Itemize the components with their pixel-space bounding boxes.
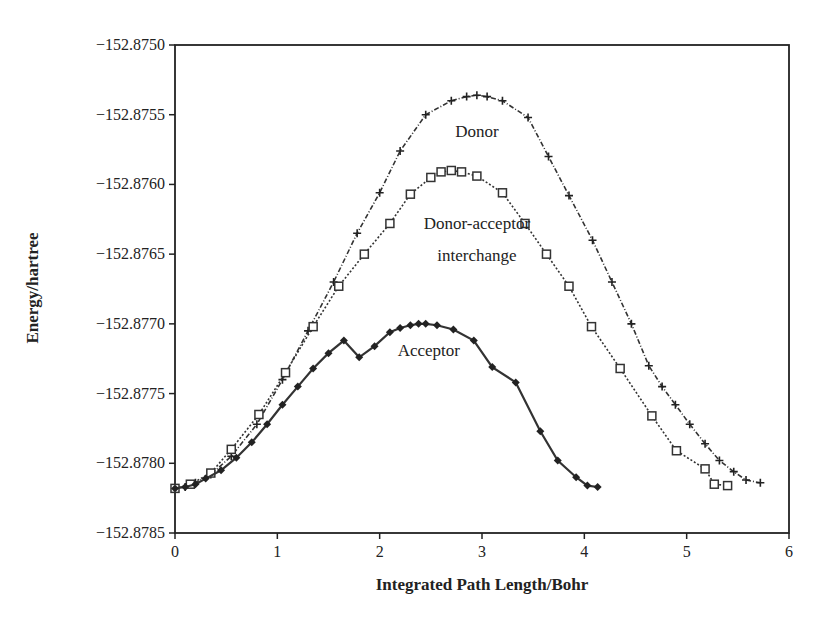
cross-marker [498,97,506,105]
y-axis: −152.8750−152.8755−152.8760−152.8765−152… [96,36,175,541]
square-marker [724,482,732,490]
square-marker [447,166,455,174]
square-marker [701,465,709,473]
cross-marker [742,476,750,484]
cross-marker [608,278,616,286]
cross-marker [756,479,764,487]
cross-marker [463,93,471,101]
square-marker [309,323,317,331]
square-marker [282,369,290,377]
y-tick-label: −152.8770 [96,315,165,332]
y-tick-label: −152.8750 [96,36,165,53]
x-tick-label: 5 [683,543,691,560]
cross-marker [565,192,573,200]
x-tick-label: 0 [171,543,179,560]
square-marker [458,168,466,176]
curve-label: Donor-acceptor [424,214,531,233]
curve-label: Donor [455,122,499,141]
square-marker [386,219,394,227]
series-layer [171,91,764,492]
diamond-marker [422,320,430,328]
square-marker [335,282,343,290]
plot-frame [175,45,789,533]
cross-marker [396,147,404,155]
diamond-marker [594,483,602,491]
square-marker [616,364,624,372]
square-marker [565,282,573,290]
x-tick-label: 4 [580,543,588,560]
plot-border [175,45,789,533]
diamond-marker [433,321,441,329]
square-marker [360,250,368,258]
y-tick-label: −152.8755 [96,106,165,123]
series-acceptor [171,320,602,493]
cross-marker [422,111,430,119]
cross-marker [447,97,455,105]
y-tick-label: −152.8760 [96,175,165,192]
cross-marker [589,236,597,244]
square-marker [427,173,435,181]
cross-marker [627,320,635,328]
cross-marker [353,229,361,237]
x-tick-label: 6 [785,543,793,560]
square-marker [542,250,550,258]
curve-label: interchange [437,246,516,265]
cross-marker [473,91,481,99]
x-tick-label: 2 [376,543,384,560]
energy-path-chart: −152.8750−152.8755−152.8760−152.8765−152… [0,0,830,625]
square-marker [672,447,680,455]
diamond-marker [396,324,404,332]
square-marker [227,445,235,453]
square-marker [255,410,263,418]
cross-marker [524,114,532,122]
cross-marker [545,153,553,161]
x-tick-label: 3 [478,543,486,560]
diamond-marker [415,320,423,328]
square-marker [437,168,445,176]
y-axis-title: Energy/hartree [23,232,42,344]
y-tick-label: −152.8780 [96,454,165,471]
square-marker [406,190,414,198]
cross-marker [376,189,384,197]
y-tick-label: −152.8765 [96,245,165,262]
x-axis-title: Integrated Path Length/Bohr [376,575,589,594]
y-tick-label: −152.8785 [96,524,165,541]
square-marker [648,412,656,420]
x-axis: 0123456 [171,533,793,560]
cross-marker [645,362,653,370]
y-tick-label: −152.8775 [96,385,165,402]
x-tick-label: 1 [273,543,281,560]
diamond-marker [406,321,414,329]
cross-marker [483,93,491,101]
square-marker [498,189,506,197]
square-marker [710,480,718,488]
series-line [175,324,598,489]
square-marker [473,172,481,180]
curve-label: Acceptor [398,341,461,360]
diamond-marker [449,325,457,333]
square-marker [587,323,595,331]
